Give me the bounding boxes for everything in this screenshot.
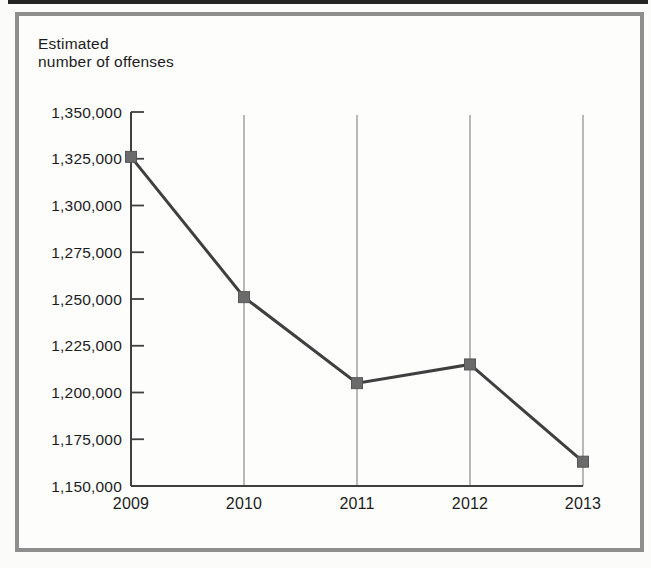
x-tick-label: 2009 (113, 495, 149, 512)
data-point-marker (578, 456, 589, 467)
x-tick-label: 2011 (339, 495, 374, 512)
data-point-marker (239, 292, 250, 303)
data-point-marker (126, 151, 137, 162)
y-tick-label: 1,275,000 (51, 244, 122, 261)
y-tick-label: 1,225,000 (51, 337, 122, 354)
data-point-marker (352, 378, 363, 389)
y-tick-label: 1,325,000 (51, 150, 122, 167)
y-tick-label: 1,350,000 (51, 104, 122, 121)
y-tick-label: 1,250,000 (51, 291, 122, 308)
x-tick-label: 2012 (452, 495, 488, 512)
page: Estimated number of offenses 1,150,0001,… (0, 0, 651, 568)
data-point-marker (465, 359, 476, 370)
x-tick-label: 2010 (226, 495, 262, 512)
y-tick-label: 1,200,000 (51, 384, 122, 401)
line-chart: 1,150,0001,175,0001,200,0001,225,0001,25… (0, 0, 651, 568)
y-tick-label: 1,300,000 (51, 197, 122, 214)
y-tick-label: 1,150,000 (51, 478, 122, 495)
y-tick-label: 1,175,000 (51, 431, 122, 448)
x-tick-label: 2013 (565, 495, 601, 512)
